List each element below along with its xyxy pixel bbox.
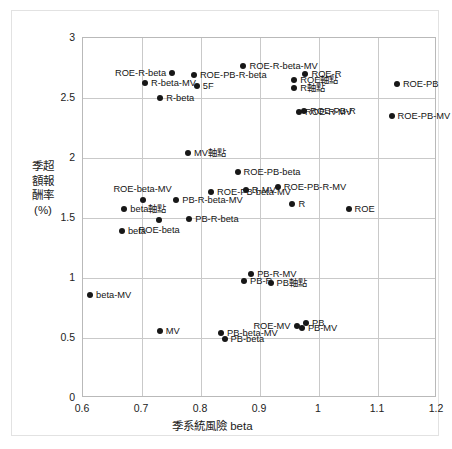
data-point-label: R-beta-MV [151,78,196,88]
data-point[interactable] [142,80,148,86]
data-point-label: ROE-beta-MV [113,184,171,194]
y-tick-label: 1 [42,271,75,283]
plot-area: ROE-R-betaROE-R-beta-MVR-beta-MVROE-PB-R… [82,37,436,397]
data-point-label: R-MV [252,185,276,195]
data-point-label: PB-MV [308,323,337,333]
data-point[interactable] [121,206,127,212]
data-point[interactable] [156,217,162,223]
x-tick-label: 0.8 [180,402,220,414]
data-point[interactable] [394,81,400,87]
data-point[interactable] [222,336,228,342]
data-point-label: MV [166,326,180,336]
x-gridline [142,38,143,396]
data-point-label: R-beta [166,93,194,103]
y-tick-label: 1.5 [42,211,75,223]
data-point-label: ROE [355,204,375,214]
data-point[interactable] [296,109,302,115]
data-point[interactable] [243,187,249,193]
data-point[interactable] [389,113,395,119]
data-point-label: PB-R-beta-MV [182,195,242,205]
data-point[interactable] [346,206,352,212]
data-point[interactable] [291,85,297,91]
x-axis-title: 季系統風險 beta [172,417,253,433]
y-tick-label: 2.5 [42,91,75,103]
data-point-label: ROE-PB-MV [398,111,451,121]
data-point-label: ROE-PB [403,79,439,89]
y-axis-title: 季超額報酬率(%) [30,159,56,217]
data-point[interactable] [241,278,247,284]
data-point[interactable] [240,63,246,69]
data-point[interactable] [289,201,295,207]
data-point-label: beta [128,226,146,236]
data-point[interactable] [87,292,93,298]
data-point-label: 5F [203,81,214,91]
data-point[interactable] [194,83,200,89]
data-point-label: PB軸點 [277,278,307,288]
y-gridline [83,98,435,99]
data-point[interactable] [218,330,224,336]
y-tick-label: 0.5 [42,331,75,343]
data-point[interactable] [169,70,175,76]
x-tick-label: 0.6 [62,402,102,414]
data-point[interactable] [140,197,146,203]
data-point[interactable] [191,72,197,78]
x-tick-label: 0.9 [239,402,279,414]
data-point[interactable] [173,197,179,203]
data-point[interactable] [299,325,305,331]
x-tick-label: 1.2 [416,402,452,414]
chart-frame: 季超額報酬率(%) 季系統風險 beta ROE-R-betaROE-R-bet… [11,10,439,436]
y-tick-label: 3 [42,31,75,43]
data-point[interactable] [157,328,163,334]
x-tick-label: 1.1 [357,402,397,414]
y-tick-label: 2 [42,151,75,163]
data-point[interactable] [185,150,191,156]
data-point[interactable] [268,280,274,286]
data-point[interactable] [291,77,297,83]
data-point-label: ROE-PB-R-beta [200,70,267,80]
data-point-label: ROE-R-beta [115,68,166,78]
data-point-label: ROE-PB-beta [244,167,301,177]
x-tick-label: 0.7 [121,402,161,414]
x-tick-label: 1 [298,402,338,414]
x-gridline [378,38,379,396]
data-point-label: beta-MV [96,290,131,300]
data-point-label: MV軸點 [194,148,226,158]
data-point-label: R軸點 [300,83,325,93]
data-point-label: PB-R-beta [195,214,238,224]
data-point-label: R [298,199,305,209]
data-point-label: PB-beta [231,334,265,344]
y-gridline [83,218,435,219]
data-point-label: ROE-R-MV [305,107,352,117]
data-point-label: ROE-PB-R-MV [284,182,347,192]
y-gridline [83,158,435,159]
data-point[interactable] [119,228,125,234]
data-point[interactable] [157,95,163,101]
data-point-label: ROE-R [311,69,341,79]
data-point[interactable] [186,216,192,222]
data-point[interactable] [235,169,241,175]
y-tick-label: 0 [42,391,75,403]
data-point-label: beta軸點 [130,204,166,214]
